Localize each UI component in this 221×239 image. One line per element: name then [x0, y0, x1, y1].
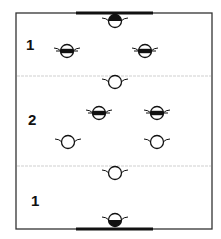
- goalkeeper-bottom-icon: [102, 214, 128, 227]
- zone-label-1-bottom: 1: [31, 193, 39, 208]
- player-a4-icon: [144, 107, 170, 120]
- player-b1-icon: [102, 76, 128, 89]
- zone-dividers: [17, 76, 211, 166]
- player-a2-icon: [132, 45, 158, 58]
- field-outline: [16, 13, 212, 229]
- player-b3-icon: [144, 136, 170, 149]
- formation-diagram: 1 2 1: [0, 0, 221, 239]
- zone-label-1-top: 1: [26, 37, 34, 52]
- player-b4-icon: [102, 167, 128, 180]
- player-a3-icon: [86, 107, 112, 120]
- player-a1-icon: [54, 45, 80, 58]
- zone-label-2-middle: 2: [28, 112, 36, 127]
- player-b2-icon: [55, 136, 81, 149]
- players: [54, 15, 170, 227]
- goalkeeper-top-icon: [102, 15, 128, 28]
